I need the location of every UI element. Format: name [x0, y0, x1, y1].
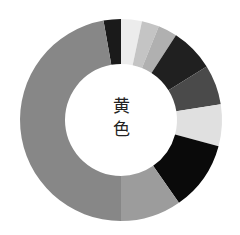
center-label: 黄色 — [109, 97, 134, 143]
donut-segment-9 — [20, 21, 121, 221]
